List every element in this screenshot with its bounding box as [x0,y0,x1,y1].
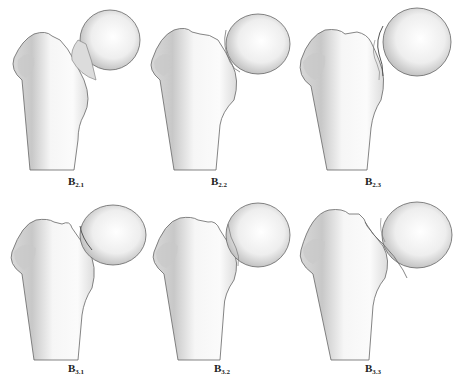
humerus-illustration-b3-1 [0,190,150,378]
humerus-illustration-b3-3 [295,190,455,378]
panel-b2-3: B2.3 [295,0,455,190]
humerus-illustration-b2-2 [140,0,300,190]
humerus-illustration-b2-1 [0,0,150,190]
label-b3-3: B3.3 [365,362,381,376]
panel-b3-2: B3.2 [140,190,300,378]
label-b2-3: B2.3 [365,175,381,189]
panel-b3-3: B3.3 [295,190,455,378]
label-b3-1: B3.1 [68,362,84,376]
panel-b3-1: B3.1 [0,190,150,378]
label-b3-2: B3.2 [214,362,230,376]
label-b2-1: B2.1 [68,175,84,189]
humerus-illustration-b3-2 [140,190,300,378]
panel-b2-2: B2.2 [140,0,300,190]
label-b2-2: B2.2 [211,175,227,189]
panel-b2-1: B2.1 [0,0,150,190]
humerus-illustration-b2-3 [295,0,455,190]
